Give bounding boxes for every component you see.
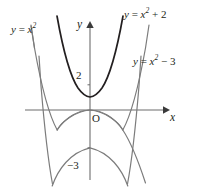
- curve-label-exponent: 2: [155, 53, 159, 62]
- curve-label-exponent: 2: [33, 21, 37, 30]
- curve-label-tail: + 2: [152, 8, 166, 20]
- curve-label-equals: =: [19, 23, 25, 35]
- y-tick-label-2: 2: [76, 70, 82, 81]
- curve-minus-3-left-arm: [39, 56, 53, 184]
- y-axis-label: y: [77, 19, 82, 31]
- y-axis-group: [86, 21, 93, 180]
- curve-label-lhs: y: [11, 23, 16, 35]
- y-tick-label-minus-3: −3: [67, 160, 79, 171]
- parabola-family-figure: y = x2 y = x2 + 2 y = x2 − 3 y x 2 −3 O: [0, 0, 197, 188]
- x-axis-label: x: [170, 112, 175, 124]
- origin-label: O: [92, 113, 100, 124]
- curve-y-equals-x-squared-extended: [57, 110, 145, 183]
- curve-label-y-equals-x-squared: y = x2: [11, 24, 36, 35]
- curve-label-tail: − 3: [161, 55, 175, 67]
- curve-label-exponent: 2: [146, 6, 150, 15]
- curve-label-y-equals-x-squared-plus-2: y = x2 + 2: [124, 9, 166, 20]
- y-axis-arrowhead: [86, 21, 93, 28]
- x-axis-arrowhead: [163, 106, 170, 113]
- curve-label-equals: =: [141, 55, 147, 67]
- curve-label-lhs: y: [124, 8, 129, 20]
- curve-label-y-equals-x-squared-minus-3: y = x2 − 3: [133, 56, 175, 67]
- curve-label-lhs: y: [133, 55, 138, 67]
- curve-label-equals: =: [132, 8, 138, 20]
